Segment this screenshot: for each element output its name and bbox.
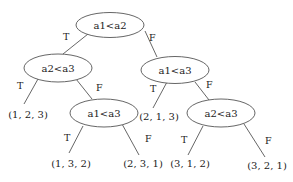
leaf-1-3-2: (1, 3, 2) xyxy=(51,158,91,169)
edge-left-leaf1 xyxy=(24,79,38,104)
edge-leftf-leaf3 xyxy=(122,124,139,155)
edge-label-t: T xyxy=(63,31,70,42)
node-root: a1<a2 xyxy=(76,13,144,38)
leaf-1-2-3: (1, 2, 3) xyxy=(8,109,48,120)
edge-label-f: F xyxy=(145,133,152,144)
node-left-false: a1<a3 xyxy=(70,99,138,127)
edge-label-f: F xyxy=(96,82,103,93)
node-label: a2<a3 xyxy=(204,108,237,119)
edge-label-f: F xyxy=(265,135,272,146)
edge-label-t: T xyxy=(150,83,157,94)
leaf-2-1-3: (2, 1, 3) xyxy=(139,111,179,122)
edge-label-f: F xyxy=(149,32,156,43)
edge-label-f: F xyxy=(206,79,213,90)
leaf-3-2-1: (3, 2, 1) xyxy=(247,160,287,171)
edge-label-t: T xyxy=(64,132,71,143)
node-left: a2<a3 xyxy=(24,54,92,82)
node-right: a1<a3 xyxy=(141,57,209,84)
node-label: a1<a2 xyxy=(93,20,126,31)
node-label: a2<a3 xyxy=(41,63,74,74)
node-right-false: a2<a3 xyxy=(187,99,255,127)
leaf-2-3-1: (2, 3, 1) xyxy=(123,158,163,169)
edge-rightf-leaf5 xyxy=(188,126,203,155)
node-label: a1<a3 xyxy=(87,108,120,119)
edge-left-leftf xyxy=(76,79,92,99)
edge-label-t: T xyxy=(17,80,24,91)
edge-rightf-leaf6 xyxy=(244,124,265,157)
decision-tree-diagram: T F T F T F T F T F a1<a2 a2<a3 a1<a3 a1… xyxy=(0,0,293,182)
edge-label-t: T xyxy=(181,134,188,145)
leaf-3-1-2: (3, 1, 2) xyxy=(170,158,210,169)
node-label: a1<a3 xyxy=(158,65,191,76)
edge-leftf-leaf2 xyxy=(69,126,83,153)
